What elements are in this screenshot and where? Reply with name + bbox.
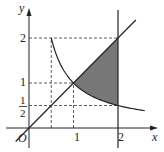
origin-label: O <box>18 131 27 145</box>
fraction-numerator: 1 <box>20 94 26 106</box>
x-tick-label-1: 1 <box>74 130 80 144</box>
x-tick-label-2: 2 <box>118 130 124 144</box>
y-tick-label-1: 1 <box>20 75 26 89</box>
diagram: x y O 1 2 2 1 1 2 <box>0 0 164 152</box>
y-tick-label-half: 1 2 <box>19 94 27 119</box>
fraction-denominator: 2 <box>20 107 26 119</box>
y-tick-label-2: 2 <box>20 31 26 45</box>
y-axis-arrow <box>27 8 32 16</box>
shaded-region <box>74 38 119 106</box>
x-axis-label: x <box>151 130 158 144</box>
y-axis-label: y <box>18 1 25 15</box>
